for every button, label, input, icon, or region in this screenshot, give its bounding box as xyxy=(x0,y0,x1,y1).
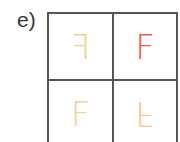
f-glyph: F xyxy=(71,97,91,131)
cell-top-right[interactable]: F xyxy=(114,14,176,79)
question-label: e) xyxy=(17,9,36,30)
cell-bottom-right[interactable]: F xyxy=(114,81,176,142)
mirrored-f-glyph: F xyxy=(71,30,91,64)
f-glyph: F xyxy=(135,30,155,64)
flipped-f-glyph: F xyxy=(135,97,155,131)
cell-top-left[interactable]: F xyxy=(49,14,112,79)
letter-grid: F F F F xyxy=(47,12,178,142)
cell-bottom-left[interactable]: F xyxy=(49,81,112,142)
grid-border-right xyxy=(176,12,178,142)
